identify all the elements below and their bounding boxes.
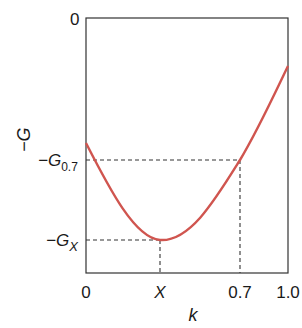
x-tick-10: 1.0 (276, 283, 300, 302)
x-tick-x: X (153, 283, 166, 302)
curve-series (86, 66, 288, 240)
y-tick-g07: −G0.7 (38, 151, 78, 174)
x-axis-label: k (189, 305, 199, 325)
y-tick-zero: 0 (70, 10, 79, 29)
y-tick-gx: −GX (46, 231, 79, 254)
plot-frame (86, 18, 288, 273)
chart: 0 −G0.7 −GX −G 0 X 0.7 1.0 k (0, 0, 302, 328)
x-tick-07: 0.7 (228, 283, 252, 302)
y-axis-label: −G (14, 127, 34, 152)
x-tick-zero: 0 (81, 283, 90, 302)
guide-lines (86, 160, 240, 273)
